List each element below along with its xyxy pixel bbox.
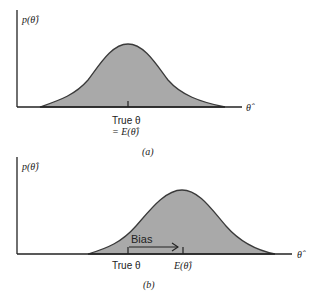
y-axis-label-b: p(θ̂) [21, 161, 39, 173]
expected-value-label-b: E(θ̂) [173, 260, 192, 272]
figure-canvas: p(θ̂) θ̂ True θ = E(θ̂) (a) p(θ̂) θ̂ Bia… [0, 0, 313, 293]
panel-a: p(θ̂) θ̂ True θ = E(θ̂) (a) [17, 10, 255, 158]
density-curve-a [40, 44, 225, 107]
x-axis-label-b: θ̂ [297, 249, 306, 260]
true-theta-label-a: True θ [112, 115, 141, 126]
bias-label: Bias [131, 233, 153, 245]
expected-value-label-a: = E(θ̂) [112, 126, 140, 138]
y-axis-label-a: p(θ̂) [21, 14, 39, 26]
panel-caption-a: (a) [142, 146, 154, 158]
density-curve-b [88, 190, 275, 254]
x-axis-label-a: θ̂ [246, 102, 255, 113]
true-theta-label-b: True θ [112, 260, 141, 271]
panel-caption-b: (b) [143, 279, 155, 291]
panel-b: p(θ̂) θ̂ Bias True θ E(θ̂) (b) [17, 157, 306, 291]
